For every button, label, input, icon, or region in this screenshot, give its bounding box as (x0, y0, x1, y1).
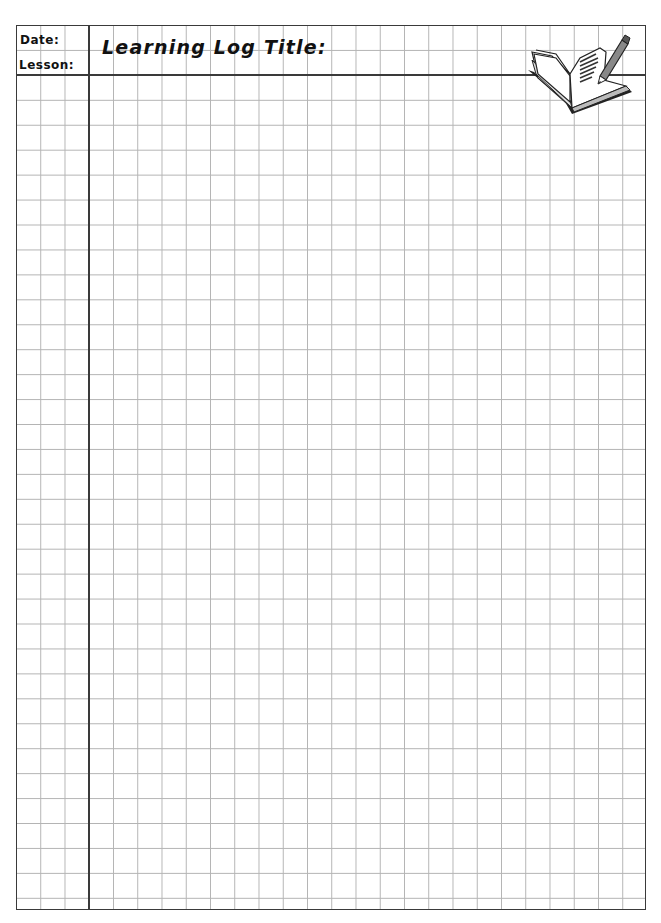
left-margin-line (88, 25, 90, 910)
graph-paper-grid (16, 25, 646, 910)
lesson-label: Lesson: (19, 58, 74, 72)
learning-log-title-label: Learning Log Title: (102, 36, 327, 58)
date-label: Date: (20, 33, 59, 47)
open-book-with-pencil-icon (522, 30, 638, 118)
